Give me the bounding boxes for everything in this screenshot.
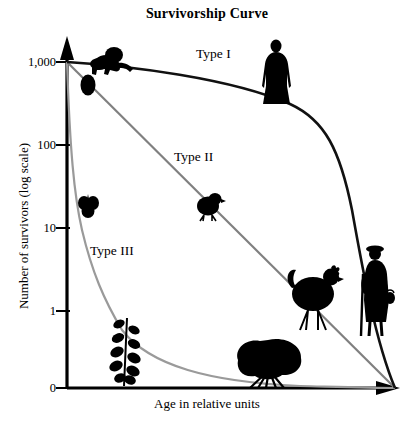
egg-silhouette <box>81 75 96 96</box>
y-axis-arrowhead <box>60 36 74 60</box>
seed-cluster-silhouette <box>78 194 99 218</box>
baby-silhouette <box>90 47 133 75</box>
survivorship-curve-figure: Survivorship Curve Number of survivors (… <box>0 0 414 430</box>
hen-silhouette <box>288 265 344 330</box>
plot-area <box>0 0 414 430</box>
adult-woman-silhouette <box>262 40 291 105</box>
seedling-silhouette <box>108 318 143 386</box>
elderly-person-silhouette <box>361 246 395 337</box>
